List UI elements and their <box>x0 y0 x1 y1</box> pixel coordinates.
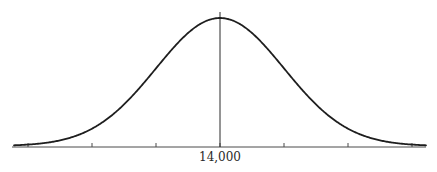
mean-label: 14,000 <box>199 150 241 164</box>
bell-curve-diagram <box>0 0 437 172</box>
